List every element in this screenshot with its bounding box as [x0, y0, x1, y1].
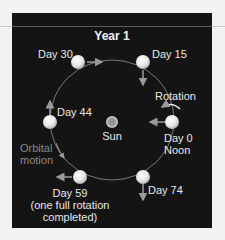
label-day74: Day 74	[148, 184, 183, 196]
planet-day44	[43, 115, 57, 129]
label-noon: Noon	[164, 144, 190, 156]
label-sun: Sun	[99, 130, 125, 142]
label-day59-sub2: completed)	[20, 211, 120, 223]
orbital-motion-arrow-icon	[56, 143, 64, 158]
label-day30: Day 30	[38, 48, 73, 60]
label-orbital: Orbital	[20, 142, 52, 154]
diagram-panel: Year 1	[12, 13, 212, 228]
label-day15: Day 15	[152, 48, 187, 60]
label-day44: Day 44	[57, 106, 92, 118]
planet-day15	[136, 55, 150, 69]
label-motion: motion	[20, 154, 53, 166]
planet-day59	[73, 170, 87, 184]
planet-day0	[165, 115, 179, 129]
label-rotation: Rotation	[155, 90, 196, 102]
planet-day74	[136, 170, 150, 184]
planet-day30	[71, 55, 85, 69]
label-day59: Day 59	[20, 187, 120, 199]
label-day0: Day 0	[164, 132, 193, 144]
label-day59-sub1: (one full rotation	[20, 199, 120, 211]
sun-icon	[106, 116, 118, 128]
rotation-arrow-icon	[162, 104, 180, 109]
